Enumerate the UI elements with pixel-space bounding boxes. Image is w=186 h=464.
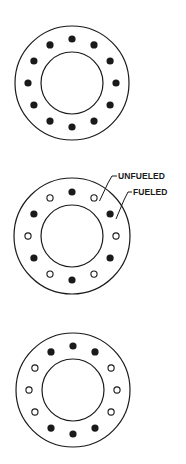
outer-ring bbox=[16, 333, 130, 447]
fueled-slot-icon bbox=[68, 35, 75, 42]
fueled-slot-icon bbox=[107, 57, 114, 64]
unfueled-slot-icon bbox=[26, 387, 32, 393]
fueled-slot-icon bbox=[46, 41, 53, 48]
paired-fueled-ring bbox=[16, 333, 130, 447]
fueled-slot-icon bbox=[91, 348, 98, 355]
inner-ring bbox=[41, 205, 103, 267]
unfueled-slot-icon bbox=[108, 409, 114, 415]
fuel-loading-diagram: UNFUELED FUELED bbox=[0, 0, 186, 464]
inner-ring bbox=[41, 52, 103, 114]
fueled-slot-icon bbox=[30, 101, 37, 108]
unfueled-slot-icon bbox=[47, 271, 53, 277]
fueled-slot-icon bbox=[30, 210, 37, 217]
unfueled-slot-icon bbox=[91, 271, 97, 277]
fueled-slot-icon bbox=[107, 210, 114, 217]
unfueled-slot-icon bbox=[32, 409, 38, 415]
unfueled-slot-icon bbox=[113, 233, 119, 239]
alternating-fueled-ring bbox=[14, 178, 130, 294]
unfueled-slot-icon bbox=[114, 387, 120, 393]
unfueled-slot-icon bbox=[47, 195, 53, 201]
fueled-slot-icon bbox=[47, 348, 54, 355]
fueled-slot-icon bbox=[112, 79, 119, 86]
unfueled-slot-icon bbox=[25, 233, 31, 239]
unfueled-slot-icon bbox=[108, 365, 114, 371]
fueled-slot-icon bbox=[68, 276, 75, 283]
fueled-slot-icon bbox=[46, 118, 53, 125]
unfueled-slot-icon bbox=[32, 365, 38, 371]
fueled-slot-icon bbox=[30, 254, 37, 261]
fueled-slot-icon bbox=[68, 123, 75, 130]
fueled-slot-icon bbox=[68, 188, 75, 195]
fueled-slot-icon bbox=[107, 101, 114, 108]
fueled-slot-icon bbox=[24, 79, 31, 86]
fueled-slot-icon bbox=[107, 254, 114, 261]
unfueled-label: UNFUELED bbox=[118, 171, 165, 181]
fueled-slot-icon bbox=[90, 118, 97, 125]
fueled-label: FUELED bbox=[133, 187, 168, 197]
unfueled-slot-icon bbox=[91, 195, 97, 201]
outer-ring bbox=[15, 26, 129, 140]
fueled-leader-line bbox=[116, 192, 132, 219]
fueled-slot-icon bbox=[90, 41, 97, 48]
fueled-slot-icon bbox=[69, 342, 76, 349]
fueled-slot-icon bbox=[30, 57, 37, 64]
inner-ring bbox=[42, 359, 104, 421]
fueled-slot-icon bbox=[69, 430, 76, 437]
fueled-slot-icon bbox=[47, 425, 54, 432]
fueled-slot-icon bbox=[91, 425, 98, 432]
all-fueled-ring bbox=[15, 26, 129, 140]
